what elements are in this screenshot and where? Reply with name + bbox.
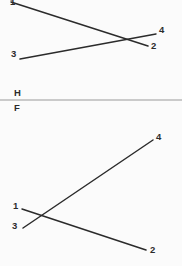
line-1-2-front-view — [22, 209, 146, 250]
top-view-label-1: 1 — [10, 0, 15, 7]
front-view-label-3: 3 — [12, 221, 17, 231]
front-view-group — [22, 140, 153, 250]
fold-line-label-h: H — [14, 88, 21, 98]
fold-line-label-f: F — [14, 103, 20, 113]
top-view-label-3: 3 — [11, 49, 16, 59]
clipped-footer-text — [0, 261, 182, 266]
top-view-label-4: 4 — [159, 25, 164, 35]
descriptive-geometry-drawing: 1 2 3 4 H F 1 2 3 4 — [0, 0, 182, 266]
line-3-4-top-view — [20, 34, 156, 59]
top-view-group — [11, 2, 156, 59]
front-view-label-1: 1 — [13, 201, 18, 211]
front-view-label-4: 4 — [156, 132, 161, 142]
top-view-label-2: 2 — [151, 41, 156, 51]
front-view-label-2: 2 — [150, 245, 155, 255]
line-3-4-front-view — [23, 140, 153, 228]
